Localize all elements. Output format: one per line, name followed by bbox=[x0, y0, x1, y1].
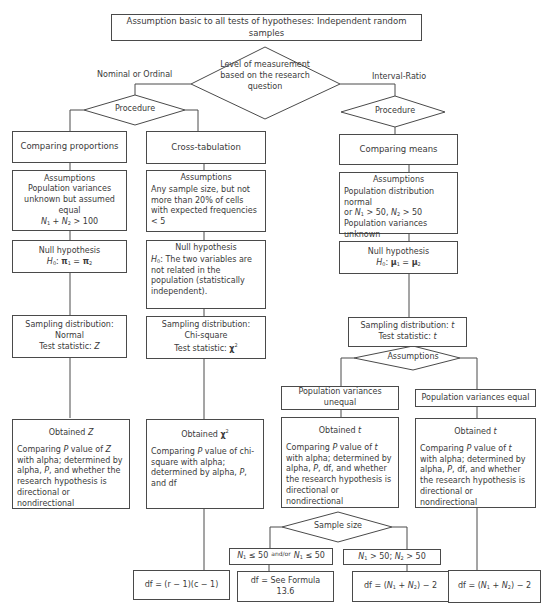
connector-proc-left-b bbox=[185, 110, 198, 131]
unequal-obtained-body: Comparing P value of t with alpha; deter… bbox=[286, 443, 394, 508]
cross-tabulation-box: Cross-tabulation bbox=[146, 131, 266, 164]
proportions-obtained-body: Comparing P value of Z with alpha; deter… bbox=[17, 445, 125, 510]
decision-procedure-right-text: Procedure bbox=[365, 106, 425, 117]
crosstab-sampling-box: Sampling distribution: Chi-square Test s… bbox=[146, 316, 266, 359]
header-box: Assumption basic to all tests of hypothe… bbox=[111, 14, 422, 41]
df-large: df = (N1 + N2) − 2 bbox=[357, 581, 444, 592]
proportions-assumptions-body: Population variances unknown but assumed… bbox=[17, 184, 122, 216]
means-assumptions-line2: or N1 > 50, N2 > 50 bbox=[344, 208, 453, 219]
connector-root-left bbox=[135, 84, 191, 95]
df-equal: df = (N1 + N2) − 2 bbox=[453, 581, 536, 592]
means-test-stat: Test statistic: t bbox=[353, 332, 462, 343]
crosstab-obtained-head: Obtained χ2 bbox=[151, 428, 259, 441]
crosstab-obtained-body: Comparing P value of chi-square with alp… bbox=[151, 447, 259, 490]
proportions-obtained-box: Obtained Z Comparing P value of Z with a… bbox=[12, 419, 130, 509]
crosstab-assumptions-box: Assumptions Any sample size, but not mor… bbox=[146, 170, 266, 232]
variances-equal-box: Population variances equal bbox=[415, 389, 536, 407]
crosstab-test-stat: Test statistic: χ2 bbox=[151, 342, 261, 355]
proportions-assumptions-head: Assumptions bbox=[17, 174, 122, 185]
df-large-box: df = (N1 + N2) − 2 bbox=[352, 571, 449, 602]
crosstab-null-head: Null hypothesis bbox=[151, 243, 261, 254]
equal-obtained-head: Obtained t bbox=[420, 427, 531, 438]
means-sampling-head: Sampling distribution: t bbox=[353, 321, 462, 332]
comparing-proportions-title: Comparing proportions bbox=[17, 141, 122, 152]
header-title: Assumption basic to all tests of hypothe… bbox=[116, 16, 417, 39]
proportions-assumptions-formula: N1 + N2 > 100 bbox=[17, 217, 122, 228]
small-sample-condition-box: N1 ≤ 50 and/or N1 ≤ 50 bbox=[229, 548, 333, 565]
equal-obtained-body: Comparing P value of t with alpha; deter… bbox=[420, 444, 531, 509]
small-condition-b: N1 ≤ 50 bbox=[294, 551, 325, 562]
df-small-box: df = See Formula 13.6 bbox=[237, 571, 334, 602]
decision-assumptions-text: Assumptions bbox=[378, 352, 448, 363]
crosstab-df: df = (r − 1)(c − 1) bbox=[138, 580, 225, 591]
unequal-obtained-head: Obtained t bbox=[286, 426, 394, 437]
means-null-formula: H0: μ1 = μ2 bbox=[344, 258, 453, 269]
crosstab-obtained-box: Obtained χ2 Comparing P value of chi-squ… bbox=[146, 419, 264, 509]
comparing-means-box: Comparing means bbox=[339, 134, 458, 165]
cross-tabulation-title: Cross-tabulation bbox=[151, 142, 261, 153]
proportions-assumptions-box: Assumptions Population variances unknown… bbox=[12, 170, 127, 231]
proportions-null-head: Null hypothesis bbox=[17, 246, 122, 257]
proportions-null-box: Null hypothesis H0: π1 = π2 bbox=[12, 240, 127, 273]
decision-procedure-left-text: Procedure bbox=[105, 104, 165, 115]
decision-sample-size-text: Sample size bbox=[303, 521, 373, 532]
df-small: df = See Formula 13.6 bbox=[242, 576, 329, 598]
branch-label-interval-ratio: Interval-Ratio bbox=[372, 72, 426, 81]
means-assumptions-line3: Population variances unknown bbox=[344, 219, 453, 241]
crosstab-null-box: Null hypothesis H0: The two variables ar… bbox=[146, 240, 266, 309]
means-null-head: Null hypothesis bbox=[344, 247, 453, 258]
proportions-obtained-head: Obtained Z bbox=[17, 428, 125, 439]
variances-unequal-title: Population variances unequal bbox=[286, 387, 394, 409]
crosstab-sampling-dist: Chi-square bbox=[151, 331, 261, 342]
proportions-null-formula: H0: π1 = π2 bbox=[17, 257, 122, 268]
means-assumptions-line1: Population distribution normal bbox=[344, 187, 453, 209]
df-equal-box: df = (N1 + N2) − 2 bbox=[448, 570, 541, 603]
connector-root-right bbox=[340, 84, 395, 96]
connector-proc-left-a bbox=[70, 110, 84, 131]
crosstab-null-body: H0: The two variables are not related in… bbox=[151, 255, 261, 298]
crosstab-df-box: df = (r − 1)(c − 1) bbox=[133, 570, 230, 600]
decision-level-text: Level of measurement based on the resear… bbox=[220, 60, 310, 92]
proportions-sampling-dist: Normal bbox=[17, 331, 122, 342]
proportions-test-stat: Test statistic: Z bbox=[17, 342, 122, 353]
means-null-box: Null hypothesis H0: μ1 = μ2 bbox=[339, 241, 458, 274]
unequal-obtained-box: Obtained t Comparing P value of t with a… bbox=[281, 417, 399, 508]
variances-unequal-box: Population variances unequal bbox=[281, 386, 399, 410]
large-sample-condition-box: N1 > 50; N2 > 50 bbox=[343, 549, 441, 565]
branch-label-nominal-ordinal: Nominal or Ordinal bbox=[97, 70, 172, 79]
proportions-sampling-head: Sampling distribution: bbox=[17, 320, 122, 331]
comparing-means-title: Comparing means bbox=[344, 144, 453, 155]
proportions-sampling-box: Sampling distribution: Normal Test stati… bbox=[12, 315, 127, 358]
small-condition-andor: and/or bbox=[271, 552, 290, 557]
comparing-proportions-box: Comparing proportions bbox=[12, 131, 127, 163]
means-sampling-box: Sampling distribution: t Test statistic:… bbox=[348, 317, 467, 347]
equal-obtained-box: Obtained t Comparing P value of t with a… bbox=[415, 418, 536, 508]
means-assumptions-head: Assumptions bbox=[344, 175, 453, 186]
crosstab-assumptions-head: Assumptions bbox=[151, 173, 261, 184]
large-condition: N1 > 50; N2 > 50 bbox=[348, 552, 436, 563]
crosstab-sampling-head: Sampling distribution: bbox=[151, 320, 261, 331]
small-condition-a: N1 ≤ 50 bbox=[237, 551, 268, 562]
crosstab-assumptions-body: Any sample size, but not more than 20% o… bbox=[151, 185, 261, 228]
variances-equal-title: Population variances equal bbox=[420, 393, 531, 404]
means-assumptions-box: Assumptions Population distribution norm… bbox=[339, 172, 458, 234]
